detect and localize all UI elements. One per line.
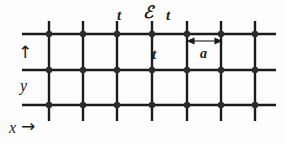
onsite-energy-label: ℰ bbox=[143, 4, 153, 21]
lattice-site bbox=[114, 31, 120, 37]
lattice-site bbox=[114, 67, 120, 73]
lattice-site bbox=[46, 102, 52, 108]
lattice-site bbox=[80, 102, 86, 108]
lattice-site bbox=[252, 67, 258, 73]
x-axis-arrow-icon: → bbox=[21, 118, 35, 135]
lattice-site bbox=[149, 102, 155, 108]
lattice-site bbox=[252, 102, 258, 108]
lattice-site bbox=[114, 102, 120, 108]
lattice-site bbox=[149, 67, 155, 73]
lattice-site bbox=[149, 31, 155, 37]
hopping-label-right: t bbox=[166, 8, 170, 23]
lattice-figure: t ℰ t t a ↑ y x → bbox=[0, 0, 285, 144]
lattice-constant-measure-arrow bbox=[188, 38, 221, 43]
lattice-site bbox=[80, 31, 86, 37]
y-axis-label: y bbox=[20, 78, 27, 94]
lattice-site bbox=[184, 67, 190, 73]
measure-arrow-head-left bbox=[188, 38, 194, 43]
lattice-site bbox=[252, 31, 258, 37]
hopping-label-vertical: t bbox=[152, 47, 156, 62]
lattice-site bbox=[218, 102, 224, 108]
lattice-site bbox=[46, 67, 52, 73]
x-axis-label: x bbox=[9, 120, 16, 136]
lattice-site bbox=[184, 31, 190, 37]
lattice-constant-label: a bbox=[200, 47, 207, 61]
y-axis-arrow-icon: ↑ bbox=[18, 44, 32, 61]
lattice-site bbox=[80, 67, 86, 73]
lattice-site bbox=[218, 67, 224, 73]
lattice-site bbox=[46, 31, 52, 37]
lattice-site bbox=[218, 31, 224, 37]
lattice-site bbox=[184, 102, 190, 108]
hopping-label-left: t bbox=[117, 8, 121, 23]
